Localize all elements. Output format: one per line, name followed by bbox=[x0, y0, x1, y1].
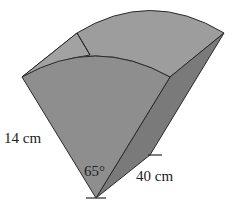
sector-prism-diagram: 14 cm 65° 40 cm bbox=[0, 0, 243, 212]
length-label: 40 cm bbox=[136, 168, 173, 184]
angle-label: 65° bbox=[84, 163, 105, 179]
radius-label: 14 cm bbox=[4, 130, 41, 146]
